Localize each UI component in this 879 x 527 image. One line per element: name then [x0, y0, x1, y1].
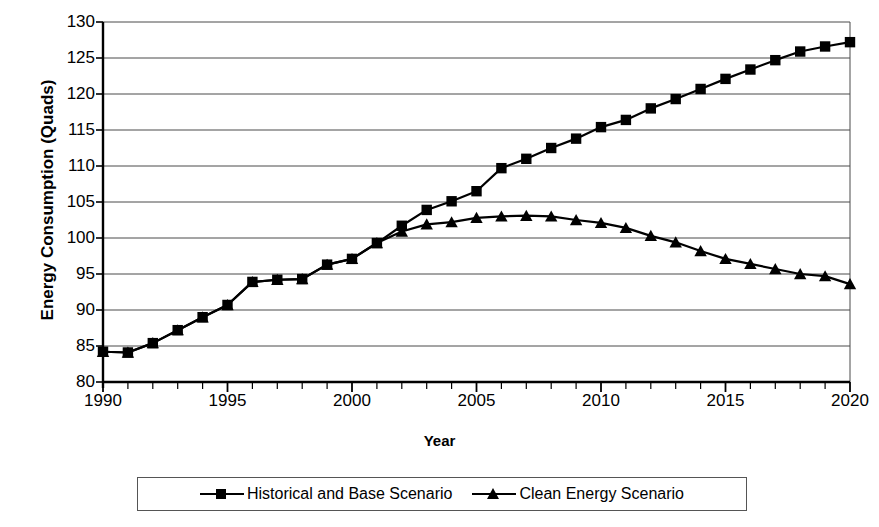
x-tick-label-2015: 2015	[686, 391, 766, 411]
chart-legend: Historical and Base Scenario Clean Energ…	[137, 477, 747, 511]
x-tick-label-1995: 1995	[188, 391, 268, 411]
square-marker-icon	[200, 486, 244, 502]
legend-item-historical-and-base-scenario: Historical and Base Scenario	[200, 485, 452, 503]
x-axis-title: Year	[0, 432, 879, 449]
legend-label-0: Historical and Base Scenario	[247, 485, 452, 503]
x-tick-label-2005: 2005	[437, 391, 517, 411]
x-tick-label-2000: 2000	[312, 391, 392, 411]
legend-label-1: Clean Energy Scenario	[519, 485, 684, 503]
x-tick-label-2020: 2020	[810, 391, 879, 411]
energy-consumption-line-chart: Energy Consumption (Quads) 8085909510010…	[0, 0, 879, 527]
triangle-marker-icon	[472, 486, 516, 502]
legend-item-clean-energy-scenario: Clean Energy Scenario	[472, 485, 684, 503]
x-axis-tick-labels: 1990199520002005201020152020	[0, 0, 879, 420]
x-tick-label-2010: 2010	[561, 391, 641, 411]
x-tick-label-1990: 1990	[63, 391, 143, 411]
